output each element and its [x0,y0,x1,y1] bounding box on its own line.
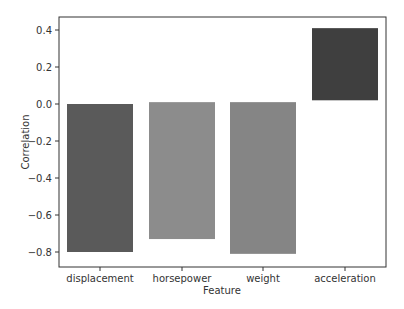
y-tick-label: 0.0 [36,99,52,110]
bar-displacement [67,104,133,252]
y-tick-label: −0.4 [28,173,52,184]
correlation-bar-chart: 0.40.20.0−0.2−0.4−0.6−0.8 displacementho… [0,0,404,309]
y-tick-label: 0.4 [36,25,52,36]
y-tick-label: −0.2 [28,136,52,147]
x-tick-label: horsepower [153,273,213,284]
y-tick-label: −0.8 [28,247,52,258]
x-axis-title: Feature [203,285,241,296]
x-tick-label: weight [246,273,280,284]
x-tick-label: displacement [66,273,133,284]
bar-weight [230,102,296,254]
y-tick-label: −0.6 [28,210,52,221]
y-tick-label: 0.2 [36,62,52,73]
y-axis-title: Correlation [20,114,31,169]
bars [67,28,378,254]
bar-acceleration [312,28,378,100]
y-axis-ticks: 0.40.20.0−0.2−0.4−0.6−0.8 [28,25,59,258]
x-tick-label: acceleration [314,273,376,284]
x-axis-ticks: displacementhorsepowerweightacceleration [66,267,376,284]
bar-horsepower [149,102,215,239]
